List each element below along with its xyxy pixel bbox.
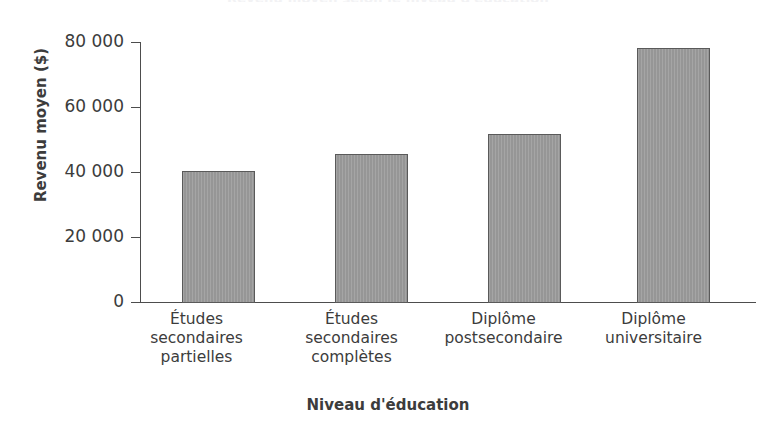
y-tick-4: 80 000 xyxy=(131,42,141,43)
bar-0 xyxy=(182,171,255,303)
bar-2 xyxy=(488,134,561,303)
x-tick-label-3: Diplôme universitaire xyxy=(561,310,746,348)
y-tick-label-3: 60 000 xyxy=(65,96,124,116)
y-tick-0: 0 xyxy=(131,302,141,303)
y-axis-title: Revenu moyen ($) xyxy=(32,15,50,235)
plot-area: 80 000 60 000 40 000 20 000 0 Études sec… xyxy=(140,42,756,303)
y-tick-label-2: 40 000 xyxy=(65,161,124,181)
chart-title: Revenu moyen selon le niveau d'éducation xyxy=(0,0,776,2)
y-tick-3: 60 000 xyxy=(131,107,141,108)
y-tick-label-1: 20 000 xyxy=(65,226,124,246)
y-tick-label-0: 0 xyxy=(113,291,124,311)
y-tick-2: 40 000 xyxy=(131,172,141,173)
bar-1 xyxy=(335,154,408,304)
bar-3 xyxy=(637,48,710,303)
bar-chart-figure: Revenu moyen selon le niveau d'éducation… xyxy=(0,0,776,428)
y-tick-label-4: 80 000 xyxy=(65,31,124,51)
y-tick-1: 20 000 xyxy=(131,237,141,238)
x-axis-title: Niveau d'éducation xyxy=(0,396,776,414)
